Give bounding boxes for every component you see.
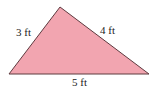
side-label-base: 5 ft: [72, 76, 87, 88]
triangle-shape: [9, 7, 149, 74]
triangle-diagram: 3 ft 4 ft 5 ft: [0, 0, 150, 88]
side-label-right: 4 ft: [100, 24, 115, 36]
side-label-left: 3 ft: [16, 26, 31, 38]
